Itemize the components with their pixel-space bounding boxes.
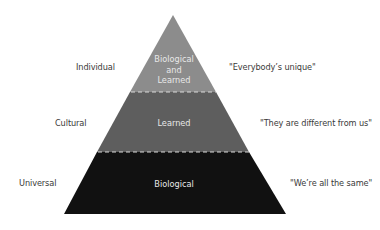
tier-universal-line-1: Biological [154, 179, 193, 190]
tier-cultural-line-1: Learned [157, 118, 190, 129]
level-label-universal: Universal [19, 178, 56, 188]
tier-cultural-text: Learned [157, 118, 190, 129]
pyramid-diagram: Individual Cultural Universal Biological… [0, 0, 380, 230]
quote-cultural: "They are different from us" [260, 118, 372, 128]
tier-individual-line-2: and [154, 65, 193, 76]
pyramid-graphic [0, 0, 380, 230]
tier-universal-text: Biological [154, 179, 193, 190]
tier-individual-text: Biological and Learned [154, 54, 193, 86]
level-label-individual: Individual [76, 62, 115, 72]
tier-individual-line-1: Biological [154, 54, 193, 65]
quote-individual: "Everybody’s unique" [229, 62, 316, 72]
quote-universal: "We’re all the same" [290, 178, 372, 188]
level-label-cultural: Cultural [55, 118, 86, 128]
tier-individual-line-3: Learned [154, 75, 193, 86]
